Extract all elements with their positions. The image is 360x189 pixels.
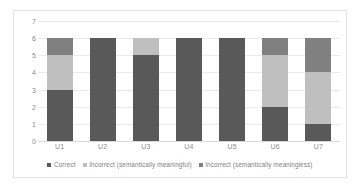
chart-card: 76543210 U1U2U3U4U5U6U7 CorrectIncorrect…: [13, 10, 347, 178]
x-axis-tick-label: U2: [90, 143, 116, 150]
legend-item[interactable]: Incorrect (semantically meaningless): [199, 162, 313, 168]
x-axis-tick-label: U5: [219, 143, 245, 150]
y-axis-tick-label: 4: [20, 69, 36, 76]
bar-group: [38, 21, 340, 141]
bar-segment[interactable]: [47, 38, 73, 55]
x-axis-tick-label: U3: [133, 143, 159, 150]
bar-segment[interactable]: [90, 38, 116, 141]
bar-segment[interactable]: [305, 72, 331, 123]
y-axis: 76543210: [20, 21, 36, 141]
bar-segment[interactable]: [176, 38, 202, 141]
bar-stack-u5[interactable]: [219, 21, 245, 141]
bar-stack-u7[interactable]: [305, 21, 331, 141]
legend-label: Incorrect (semantically meaningless): [205, 162, 312, 168]
y-axis-tick-label: 2: [20, 103, 36, 110]
bar-stack-u2[interactable]: [90, 21, 116, 141]
x-axis: U1U2U3U4U5U6U7: [38, 143, 340, 157]
x-axis-tick-label: U4: [176, 143, 202, 150]
chart-legend: CorrectIncorrect (semantically meaningfu…: [14, 158, 346, 172]
y-axis-tick-label: 7: [20, 18, 36, 25]
bar-segment[interactable]: [262, 55, 288, 106]
legend-swatch-icon: [199, 163, 203, 167]
bar-segment[interactable]: [305, 38, 331, 72]
bar-segment[interactable]: [262, 38, 288, 55]
bar-segment[interactable]: [133, 55, 159, 141]
bar-stack-u4[interactable]: [176, 21, 202, 141]
legend-item[interactable]: Correct: [47, 162, 75, 168]
y-axis-tick-label: 0: [20, 138, 36, 145]
bar-segment[interactable]: [262, 107, 288, 141]
bar-segment[interactable]: [133, 38, 159, 55]
x-axis-tick-label: U6: [262, 143, 288, 150]
plot-area: 76543210 U1U2U3U4U5U6U7: [14, 11, 346, 177]
bar-stack-u1[interactable]: [47, 21, 73, 141]
x-axis-tick-label: U1: [47, 143, 73, 150]
y-axis-tick-label: 6: [20, 35, 36, 42]
bar-segment[interactable]: [305, 124, 331, 141]
legend-item[interactable]: Incorrect (semantically meaningful): [83, 162, 192, 168]
y-axis-tick-label: 1: [20, 120, 36, 127]
legend-label: Correct: [54, 162, 76, 168]
y-axis-tick-label: 3: [20, 86, 36, 93]
x-axis-tick-label: U7: [305, 143, 331, 150]
bar-segment[interactable]: [219, 38, 245, 141]
legend-swatch-icon: [47, 163, 51, 167]
x-axis-line: [38, 141, 340, 142]
y-axis-tick-label: 5: [20, 52, 36, 59]
bar-segment[interactable]: [47, 90, 73, 141]
bar-stack-u6[interactable]: [262, 21, 288, 141]
bar-stack-u3[interactable]: [133, 21, 159, 141]
legend-swatch-icon: [83, 163, 87, 167]
legend-label: Incorrect (semantically meaningful): [89, 162, 192, 168]
bar-segment[interactable]: [47, 55, 73, 89]
